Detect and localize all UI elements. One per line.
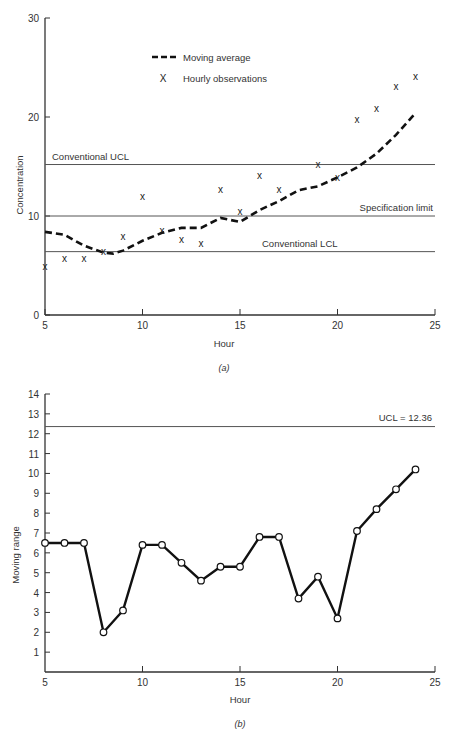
x-axis-label: Hour bbox=[230, 694, 251, 705]
moving-range-point bbox=[198, 577, 205, 584]
y-tick-label: 10 bbox=[28, 468, 40, 479]
moving-range-point bbox=[81, 540, 88, 547]
moving-range-point bbox=[354, 528, 361, 535]
moving-range-point bbox=[276, 534, 283, 541]
y-tick-label: 12 bbox=[28, 429, 40, 440]
x-tick-label: 15 bbox=[234, 677, 246, 688]
moving-range-point bbox=[139, 542, 146, 549]
moving-range-point bbox=[120, 607, 127, 614]
moving-range-line bbox=[45, 469, 416, 632]
chart-b-moving-range: 1234567891011121314510152025HourMoving r… bbox=[0, 0, 450, 742]
moving-range-point bbox=[178, 559, 185, 566]
y-tick-label: 6 bbox=[33, 548, 39, 559]
y-tick-label: 5 bbox=[33, 568, 39, 579]
y-tick-label: 7 bbox=[33, 528, 39, 539]
y-tick-label: 14 bbox=[28, 389, 40, 400]
y-tick-label: 4 bbox=[33, 588, 39, 599]
y-tick-label: 11 bbox=[29, 449, 40, 460]
moving-range-point bbox=[373, 506, 380, 513]
y-tick-label: 9 bbox=[33, 488, 39, 499]
moving-range-point bbox=[315, 573, 322, 580]
moving-range-point bbox=[334, 615, 341, 622]
moving-range-point bbox=[412, 466, 419, 473]
y-tick-label: 3 bbox=[33, 607, 39, 618]
caption-b: (b) bbox=[235, 719, 246, 729]
y-axis-label: Moving range bbox=[10, 526, 21, 584]
moving-range-point bbox=[256, 534, 263, 541]
moving-range-point bbox=[217, 563, 224, 570]
moving-range-point bbox=[295, 595, 302, 602]
moving-range-point bbox=[237, 563, 244, 570]
moving-range-point bbox=[159, 542, 166, 549]
x-tick-label: 20 bbox=[332, 677, 344, 688]
y-tick-label: 1 bbox=[33, 647, 39, 658]
y-tick-label: 8 bbox=[33, 508, 39, 519]
y-tick-label: 13 bbox=[28, 409, 40, 420]
moving-range-point bbox=[100, 629, 107, 636]
moving-range-point bbox=[393, 486, 400, 493]
moving-range-point bbox=[61, 540, 68, 547]
x-tick-label: 5 bbox=[42, 677, 48, 688]
moving-range-point bbox=[42, 540, 49, 547]
x-tick-label: 10 bbox=[137, 677, 149, 688]
y-tick-label: 2 bbox=[33, 627, 39, 638]
x-tick-label: 25 bbox=[429, 677, 441, 688]
ucl-label: UCL = 12.36 bbox=[379, 412, 432, 423]
